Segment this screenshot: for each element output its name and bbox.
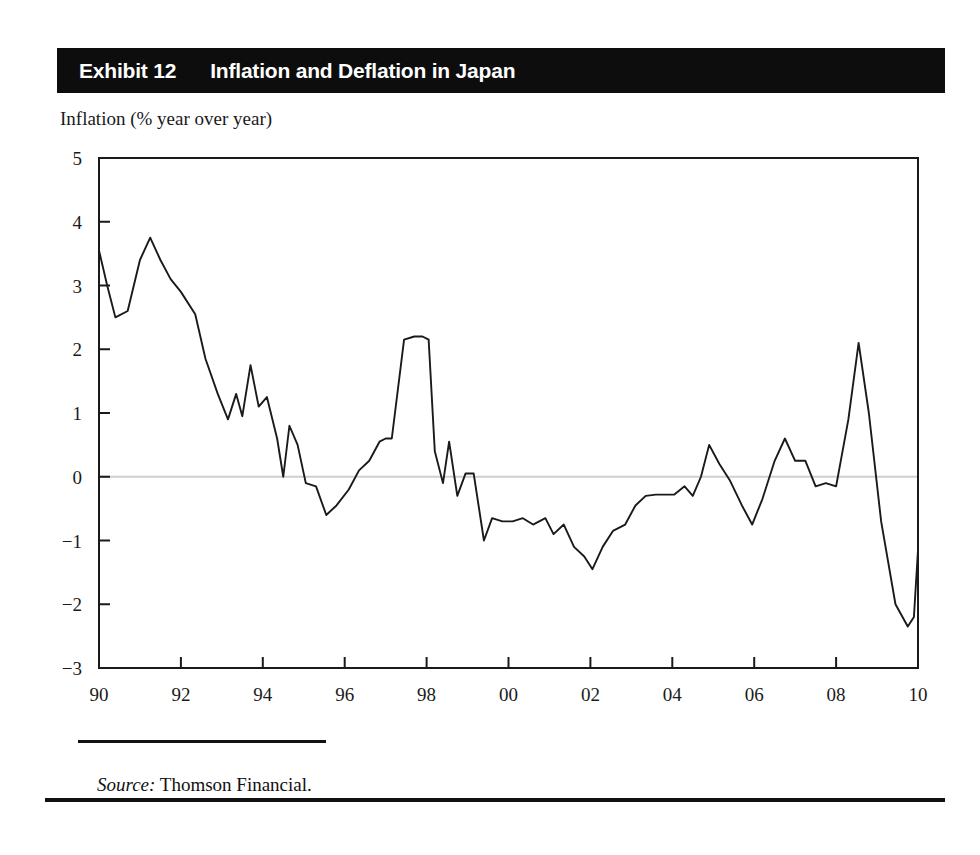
y-axis-tick-labels: −3−2−1012345 [62, 148, 83, 679]
source-note: Source: Thomson Financial. [78, 752, 312, 818]
x-tick-label: 08 [827, 684, 846, 705]
inflation-line-chart: −3−2−1012345 9092949698000204060810 [0, 0, 980, 740]
x-tick-label: 92 [171, 684, 190, 705]
x-axis-ticks [99, 657, 918, 668]
y-tick-label: −1 [62, 531, 82, 552]
x-axis-tick-labels: 9092949698000204060810 [90, 684, 928, 705]
chart-area: −3−2−1012345 9092949698000204060810 [0, 0, 980, 740]
x-tick-label: 04 [663, 684, 683, 705]
series-line-japan-cpi [99, 238, 918, 627]
y-tick-label: 4 [73, 212, 83, 233]
y-tick-label: 3 [73, 276, 83, 297]
plot-frame [99, 158, 918, 668]
y-tick-label: 5 [73, 148, 83, 169]
x-tick-label: 98 [417, 684, 436, 705]
x-tick-label: 90 [90, 684, 109, 705]
y-axis-ticks [99, 158, 110, 668]
x-tick-label: 06 [745, 684, 764, 705]
x-tick-label: 02 [581, 684, 600, 705]
plot-border [99, 158, 918, 668]
source-divider-rule [78, 740, 326, 743]
y-tick-label: −3 [62, 658, 82, 679]
x-tick-label: 00 [499, 684, 518, 705]
figure-bottom-rule [45, 798, 945, 802]
x-tick-label: 94 [253, 684, 273, 705]
data-series-group [99, 238, 918, 627]
source-text: Thomson Financial. [155, 774, 311, 795]
y-tick-label: −2 [62, 594, 82, 615]
y-tick-label: 2 [73, 339, 83, 360]
exhibit-figure: Exhibit 12 Inflation and Deflation in Ja… [0, 0, 980, 855]
x-tick-label: 10 [909, 684, 928, 705]
y-tick-label: 0 [73, 467, 83, 488]
y-tick-label: 1 [73, 403, 83, 424]
x-tick-label: 96 [335, 684, 354, 705]
source-label: Source: [97, 774, 155, 795]
